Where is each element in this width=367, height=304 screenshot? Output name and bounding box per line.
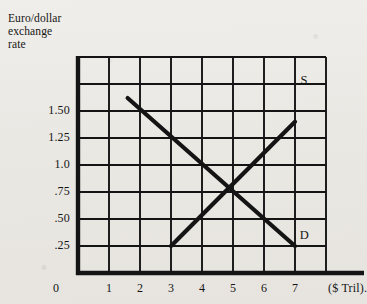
x-tick-label: 1 <box>99 281 119 296</box>
figure-container: Euro/dollar exchange rate .25.50.751.01.… <box>0 0 367 304</box>
y-tick-label: 1.25 <box>24 130 70 145</box>
x-tick-label: 5 <box>223 281 243 296</box>
x-tick-label: 7 <box>285 281 305 296</box>
y-tick-label: .75 <box>24 184 70 199</box>
x-axis-unit-label: ($ Tril). <box>328 281 367 296</box>
plot-area <box>0 0 367 304</box>
x-tick-label: 2 <box>130 281 150 296</box>
demand-curve <box>128 98 295 246</box>
y-tick-label: .50 <box>24 211 70 226</box>
y-tick-label: 1.50 <box>24 103 70 118</box>
curves <box>128 98 295 246</box>
demand-curve-label: D <box>300 228 309 243</box>
x-tick-origin: 0 <box>46 281 66 296</box>
x-tick-label: 3 <box>161 281 181 296</box>
x-tick-label: 4 <box>192 281 212 296</box>
y-tick-label: .25 <box>24 238 70 253</box>
supply-curve-label: S <box>300 73 307 88</box>
y-tick-label: 1.0 <box>24 157 70 172</box>
x-tick-label: 6 <box>254 281 274 296</box>
